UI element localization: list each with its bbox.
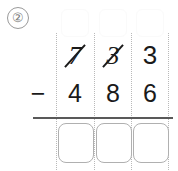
subtraction-worksheet-problem: ② 7 3 3 − 4 8 6 — [0, 0, 178, 171]
struck-digit-wrapper: 7 — [69, 41, 82, 71]
subtrahend-digit-hundreds: 4 — [56, 78, 94, 108]
subtrahend-digit-ones: 6 — [131, 78, 169, 108]
minuend-digit-tens-value: 3 — [107, 41, 120, 70]
minus-operator-icon: − — [28, 78, 48, 108]
minuend-digit-hundreds: 7 — [56, 40, 94, 71]
minuend-digit-ones: 3 — [131, 40, 169, 70]
struck-digit-wrapper: 3 — [107, 41, 120, 71]
answer-box-tens[interactable] — [96, 123, 132, 163]
answer-box-ones[interactable] — [133, 123, 169, 163]
regroup-box-hundreds[interactable] — [61, 9, 89, 37]
subtrahend-digit-tens: 8 — [94, 78, 132, 108]
answer-box-hundreds[interactable] — [58, 123, 94, 163]
regroup-box-tens[interactable] — [99, 9, 127, 37]
answer-rule-line — [33, 117, 173, 119]
minuend-digit-hundreds-value: 7 — [69, 41, 82, 70]
regroup-box-ones[interactable] — [136, 9, 164, 37]
minuend-digit-tens: 3 — [94, 40, 132, 71]
problem-number-badge: ② — [7, 7, 29, 29]
